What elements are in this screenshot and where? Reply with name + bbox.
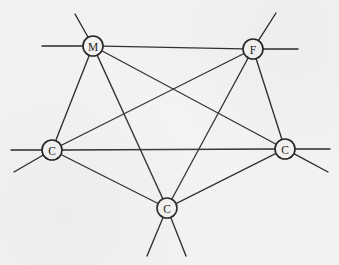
node-c-bottom[interactable]: C xyxy=(157,198,177,218)
edge-m-cleft xyxy=(56,55,90,140)
edge-m-cright xyxy=(102,51,276,145)
kinship-diagram-figure: MFCCC xyxy=(0,0,339,265)
stub-cleft-down xyxy=(14,155,43,172)
edge-cleft-cright xyxy=(62,149,275,150)
node-circle-icon xyxy=(42,140,62,160)
edge-f-cbottom xyxy=(172,58,248,199)
node-circle-icon xyxy=(243,39,263,59)
edge-cleft-cbottom xyxy=(61,155,158,204)
node-c-left[interactable]: C xyxy=(42,140,62,160)
edge-cright-cbottom xyxy=(176,153,276,203)
node-circle-icon xyxy=(157,198,177,218)
edge-line-layer xyxy=(56,46,282,203)
node-m-top-left[interactable]: M xyxy=(83,36,103,56)
edge-f-cright xyxy=(256,59,282,140)
node-c-right[interactable]: C xyxy=(275,139,295,159)
node-circle-icon xyxy=(275,139,295,159)
stub-f-up xyxy=(258,13,276,41)
diagram-canvas: MFCCC xyxy=(0,0,339,265)
node-f-top-right[interactable]: F xyxy=(243,39,263,59)
edge-f-cleft xyxy=(61,53,244,145)
edge-m-f xyxy=(103,46,243,49)
stub-line-layer xyxy=(11,13,330,256)
stub-m-up xyxy=(75,14,88,37)
stub-cright-down xyxy=(294,154,328,172)
stub-cbottom-dl xyxy=(147,217,163,256)
stub-cbottom-dr xyxy=(171,217,186,256)
node-circle-icon xyxy=(83,36,103,56)
